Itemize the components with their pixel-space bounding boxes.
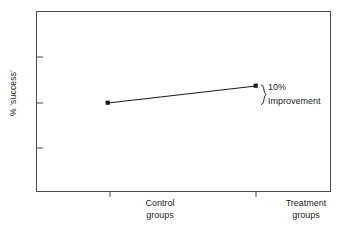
chart-figure: % 'success' Control groups Treatment (0, 0, 349, 233)
x-tick-label-treatment-line2: groups (256, 210, 349, 222)
y-axis-label: % 'success' (8, 58, 18, 128)
x-tick-label-control-line2: groups (110, 210, 210, 222)
x-tick-label-treatment-line1: Treatment (256, 198, 349, 210)
x-tick-label-control-line1: Control (110, 198, 210, 210)
x-axis-ticks (110, 192, 256, 197)
improvement-value-label: 10% (268, 82, 286, 94)
improvement-description-label: Improvement (268, 96, 321, 108)
